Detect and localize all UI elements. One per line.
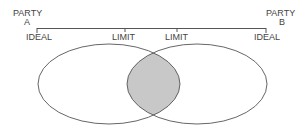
scale-line [37, 28, 266, 33]
overlap-region [127, 44, 267, 124]
negotiation-diagram [0, 0, 306, 133]
